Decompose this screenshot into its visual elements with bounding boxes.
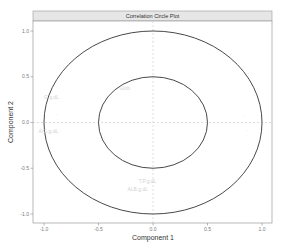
y-tick-label: -1.0 xyxy=(20,211,29,217)
y-tick-label: 0.5 xyxy=(22,73,29,79)
y-tick-label: -0.5 xyxy=(20,165,29,171)
variable-label: G.g.dL xyxy=(44,94,59,100)
x-tick-label: 0.0 xyxy=(150,226,157,232)
y-tick-label: 0.0 xyxy=(22,119,29,125)
x-tick-label: 0.5 xyxy=(204,226,211,232)
plot-panel xyxy=(33,21,272,223)
variable-label: Glob xyxy=(119,85,130,91)
correlation-circle-chart: Correlation Circle Plot G.g.dL·A/G.g.dL·… xyxy=(0,0,287,245)
x-tick-label: -1.0 xyxy=(40,226,49,232)
y-axis-title: Component 2 xyxy=(7,101,15,143)
x-tick-label: 1.0 xyxy=(259,226,266,232)
x-tick-label: -0.5 xyxy=(94,226,103,232)
plot-title: Correlation Circle Plot xyxy=(126,13,180,19)
y-tick-label: 1.0 xyxy=(22,28,29,34)
variable-label: T.P.g.dL xyxy=(139,178,157,184)
x-axis-ticks: -1.0-0.50.00.51.0 xyxy=(40,223,266,232)
x-axis-title: Component 1 xyxy=(132,234,174,242)
variable-label: ALB.g.dL xyxy=(127,186,148,192)
y-axis-ticks: 1.00.50.0-0.5-1.0 xyxy=(20,28,33,217)
variable-label: A/G.g.dL xyxy=(38,128,58,134)
